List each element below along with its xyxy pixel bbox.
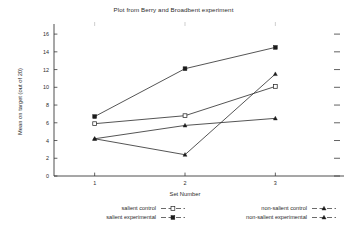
legend-key-open-square-icon xyxy=(160,204,186,213)
legend-label: salient experimental xyxy=(106,213,156,222)
legend-item: non-salient experimental xyxy=(205,213,337,222)
y-axis-title: Mean on target (out of 20) xyxy=(17,68,23,135)
legend-key-filled-square-icon xyxy=(160,213,186,222)
chart-figure: Plot from Berry and Broadbent experiment… xyxy=(0,0,347,240)
legend-column-salient: salient control salient experimental xyxy=(60,204,186,222)
legend-label: non-salient experimental xyxy=(246,213,307,222)
svg-text:10: 10 xyxy=(43,84,49,90)
series-group xyxy=(93,45,278,156)
ticks-group xyxy=(54,22,340,176)
svg-text:4: 4 xyxy=(46,138,49,144)
legend-item: non-salient control xyxy=(205,204,337,213)
legend-item: salient control xyxy=(60,204,186,213)
svg-text:3: 3 xyxy=(274,180,277,186)
svg-text:6: 6 xyxy=(46,120,49,126)
svg-text:1: 1 xyxy=(93,180,96,186)
svg-text:12: 12 xyxy=(43,67,49,73)
axes-group xyxy=(54,24,344,176)
legend-item: salient experimental xyxy=(60,213,186,222)
svg-text:2: 2 xyxy=(46,155,49,161)
x-tick-labels: 123 xyxy=(93,180,277,186)
svg-text:16: 16 xyxy=(43,31,49,37)
x-axis-title: Set Number xyxy=(170,191,201,197)
svg-text:2: 2 xyxy=(184,180,187,186)
legend-label: salient control xyxy=(121,204,156,213)
svg-text:14: 14 xyxy=(43,49,49,55)
legend-column-non-salient: non-salient control non-salient experime… xyxy=(205,204,337,222)
legend-key-triangle-icon xyxy=(311,204,337,213)
chart-legend: salient control salient experimental non… xyxy=(0,204,347,230)
legend-key-triangle-icon xyxy=(311,213,337,222)
y-tick-labels: 0246810121416 xyxy=(43,31,49,179)
legend-label: non-salient control xyxy=(261,204,307,213)
svg-text:8: 8 xyxy=(46,102,49,108)
svg-text:0: 0 xyxy=(46,173,49,179)
